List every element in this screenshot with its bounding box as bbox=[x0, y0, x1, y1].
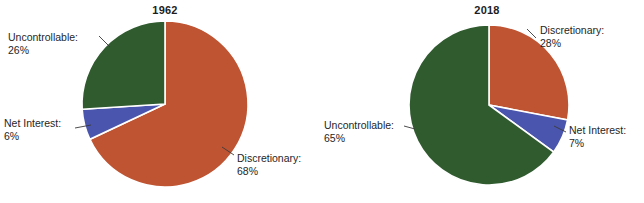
leader-line-discretionary bbox=[222, 147, 234, 155]
pie-chart-2018: 2018 Discretionary: 28% Uncontrollable: … bbox=[322, 0, 644, 203]
figure-root: 1962 Uncontrollable: 26% Net Interest: 6… bbox=[0, 0, 644, 203]
pie-chart-1962: 1962 Uncontrollable: 26% Net Interest: 6… bbox=[0, 0, 322, 203]
leader-lines-2018 bbox=[322, 0, 644, 203]
leader-line-discretionary bbox=[527, 29, 536, 38]
leader-lines-1962 bbox=[0, 0, 322, 203]
leader-line-net-interest bbox=[554, 126, 566, 132]
leader-line-net-interest bbox=[75, 125, 91, 128]
leader-line-uncontrollable bbox=[99, 36, 110, 47]
leader-line-uncontrollable bbox=[404, 126, 415, 129]
